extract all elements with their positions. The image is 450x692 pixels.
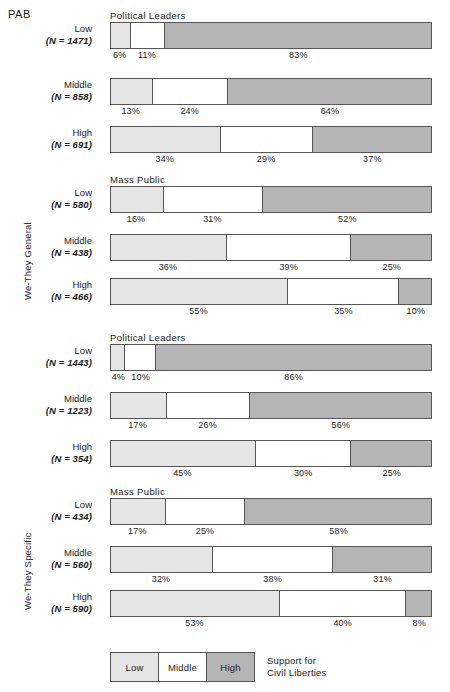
bar-segment-low [111, 499, 165, 524]
bar-row-sample-size: (N = 434) [0, 511, 92, 523]
bar-row: Low(N = 580)16%31%52% [0, 186, 450, 226]
bar-row-label: Middle(N = 858) [0, 79, 92, 102]
bar-segment-high [228, 79, 431, 104]
bar-value-label-low: 4% [112, 372, 125, 382]
bar-value-label-high: 8% [413, 618, 426, 628]
bar-segment-low [111, 393, 166, 418]
bar-value-labels: 36%39%25% [110, 262, 432, 275]
panel-title-political-leaders-specific: Political Leaders [110, 332, 186, 343]
bar-segment-low [111, 279, 287, 304]
bar-row-category: Middle [0, 393, 92, 405]
bar-row-sample-size: (N = 1223) [0, 405, 92, 417]
bar-segment-middle [130, 23, 165, 48]
bar-row-category: Low [0, 345, 92, 357]
bar-segment-middle [124, 345, 156, 370]
stacked-bar [110, 22, 432, 49]
bar-segment-middle [166, 393, 250, 418]
bar-row-sample-size: (N = 466) [0, 291, 92, 303]
bar-value-label-high: 31% [373, 574, 392, 584]
bar-segment-low [111, 79, 152, 104]
legend-caption-line2: Civil Liberties [267, 667, 327, 679]
bar-segment-middle [287, 279, 399, 304]
bar-value-label-middle: 11% [138, 50, 156, 60]
bar-value-label-low: 6% [113, 50, 126, 60]
legend-item-high: High [207, 653, 254, 681]
bar-row: Middle(N = 560)32%38%31% [0, 546, 450, 586]
bar-row-sample-size: (N = 580) [0, 199, 92, 211]
bar-segment-middle [165, 499, 245, 524]
bar-row-sample-size: (N = 1443) [0, 357, 92, 369]
bar-value-label-high: 37% [363, 154, 382, 164]
stacked-bar [110, 344, 432, 371]
bar-value-label-low: 53% [185, 618, 204, 628]
stacked-bar [110, 546, 432, 573]
legend-caption: Support for Civil Liberties [267, 655, 327, 679]
bar-row-category: High [0, 127, 92, 139]
bar-value-label-middle: 39% [279, 262, 298, 272]
bar-value-label-middle: 24% [180, 106, 199, 116]
bar-segment-low [111, 127, 220, 152]
bar-value-labels: 16%31%52% [110, 214, 432, 227]
bar-segment-low [111, 591, 279, 616]
bar-value-labels: 55%35%10% [110, 306, 432, 319]
bar-row-category: High [0, 591, 92, 603]
bar-value-label-high: 25% [382, 468, 401, 478]
stacked-bar [110, 392, 432, 419]
bar-value-label-low: 17% [128, 526, 147, 536]
panel-title-political-leaders-general: Political Leaders [110, 10, 186, 21]
bar-value-label-low: 36% [159, 262, 178, 272]
bar-value-labels: 45%30%25% [110, 468, 432, 481]
bar-row-sample-size: (N = 858) [0, 91, 92, 103]
stacked-bar [110, 590, 432, 617]
bar-segment-middle [255, 441, 351, 466]
bar-segment-middle [152, 79, 228, 104]
bar-row-label: High(N = 354) [0, 441, 92, 464]
bar-segment-middle [220, 127, 313, 152]
bar-value-label-high: 25% [382, 262, 401, 272]
bar-value-label-high: 10% [407, 306, 426, 316]
stacked-bar [110, 234, 432, 261]
bar-value-label-low: 34% [155, 154, 174, 164]
bar-row: High(N = 691)34%29%37% [0, 126, 450, 166]
bar-value-label-middle: 26% [198, 420, 217, 430]
bar-segment-high [399, 279, 431, 304]
legend: Low Middle High Support for Civil Libert… [110, 652, 327, 682]
bar-row: Low(N = 1443)4%10%86% [0, 344, 450, 384]
bar-segment-high [351, 235, 431, 260]
bar-row: High(N = 354)45%30%25% [0, 440, 450, 480]
bar-row: Middle(N = 858)13%24%64% [0, 78, 450, 118]
stacked-bar [110, 498, 432, 525]
bar-value-labels: 13%24%64% [110, 106, 432, 119]
bar-row-sample-size: (N = 438) [0, 247, 92, 259]
bar-row-category: Middle [0, 79, 92, 91]
bar-segment-middle [226, 235, 351, 260]
bar-value-label-high: 86% [284, 372, 303, 382]
bar-row-sample-size: (N = 590) [0, 603, 92, 615]
bar-value-label-middle: 31% [203, 214, 222, 224]
bar-row-category: High [0, 279, 92, 291]
corner-label-pab: PAB [8, 8, 31, 20]
bar-value-label-middle: 10% [131, 372, 150, 382]
legend-item-middle: Middle [158, 653, 207, 681]
bar-row: High(N = 590)53%40%8% [0, 590, 450, 630]
bar-segment-middle [279, 591, 406, 616]
bar-value-label-low: 32% [152, 574, 171, 584]
bar-segment-low [111, 547, 212, 572]
bar-segment-middle [163, 187, 263, 212]
bar-row-label: Middle(N = 1223) [0, 393, 92, 416]
bar-row: Middle(N = 1223)17%26%56% [0, 392, 450, 432]
bar-row-label: Middle(N = 560) [0, 547, 92, 570]
bar-value-label-middle: 40% [333, 618, 352, 628]
bar-row-sample-size: (N = 1471) [0, 35, 92, 47]
bar-row-sample-size: (N = 560) [0, 559, 92, 571]
bar-segment-high [351, 441, 431, 466]
panel-title-mass-public-specific: Mass Public [110, 486, 165, 497]
bar-row-category: Low [0, 187, 92, 199]
bar-value-label-middle: 30% [294, 468, 313, 478]
bar-segment-low [111, 235, 226, 260]
bar-row-category: Low [0, 23, 92, 35]
stacked-bar [110, 440, 432, 467]
bar-segment-middle [212, 547, 332, 572]
bar-row-label: Low(N = 580) [0, 187, 92, 210]
bar-value-label-high: 64% [321, 106, 340, 116]
